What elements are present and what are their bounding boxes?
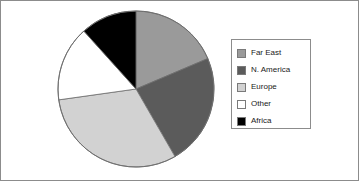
legend-label-far-east: Far East xyxy=(251,48,281,58)
legend-item-europe[interactable]: Europe xyxy=(237,79,310,95)
legend-item-n-america[interactable]: N. America xyxy=(237,62,310,78)
legend-item-other[interactable]: Other xyxy=(237,96,310,112)
legend-swatch-other xyxy=(237,100,246,109)
chart-frame: Far East N. America Europe Other Africa xyxy=(0,0,359,181)
legend-swatch-n-america xyxy=(237,66,246,75)
legend-label-other: Other xyxy=(251,99,271,109)
legend-swatch-europe xyxy=(237,83,246,92)
legend-swatch-far-east xyxy=(237,49,246,58)
legend-item-far-east[interactable]: Far East xyxy=(237,45,310,61)
legend-label-n-america: N. America xyxy=(251,65,290,75)
legend-label-europe: Europe xyxy=(251,82,277,92)
legend-label-africa: Africa xyxy=(251,116,271,126)
legend-swatch-africa xyxy=(237,117,246,126)
pie-slices-group xyxy=(58,11,214,167)
legend-item-africa[interactable]: Africa xyxy=(237,113,310,129)
legend: Far East N. America Europe Other Africa xyxy=(231,39,311,129)
